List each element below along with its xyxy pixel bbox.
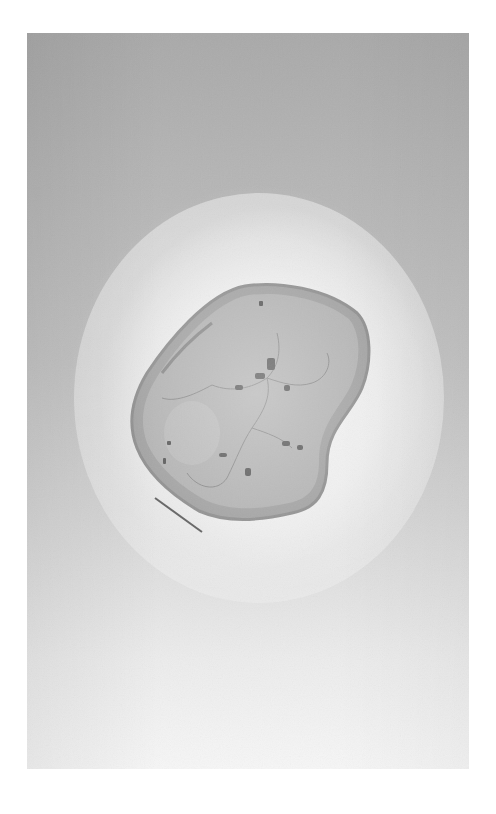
island-roads	[162, 333, 329, 487]
island-clearing	[164, 401, 220, 465]
photo-grain	[27, 33, 469, 769]
aerial-photo	[27, 33, 469, 769]
reef-halo	[74, 193, 444, 603]
island-coast-ring	[132, 284, 369, 519]
island-settlements	[163, 301, 303, 476]
island-graphic	[27, 33, 469, 769]
coastal-strip	[162, 323, 212, 373]
island-plateau	[143, 294, 358, 508]
airstrip	[155, 498, 202, 532]
